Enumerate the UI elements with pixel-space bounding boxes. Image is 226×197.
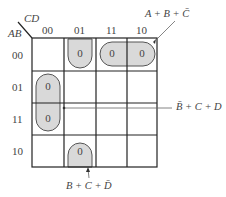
row-variable-label: AB	[8, 27, 21, 39]
cell-11-00: 0	[44, 112, 52, 124]
term-bbar-c-d: B̄ + C + D	[176, 101, 222, 112]
cell-00-01: 0	[76, 47, 84, 59]
cell-01-00: 0	[44, 80, 52, 92]
cell-00-11: 0	[108, 47, 116, 59]
row-header-10: 10	[12, 145, 23, 157]
term-a-b-cbar: A + B + C̄	[145, 8, 189, 19]
col-header-11: 11	[106, 24, 117, 36]
col-header-00: 00	[42, 24, 53, 36]
cell-00-10: 0	[138, 47, 146, 59]
row-header-11: 11	[12, 113, 23, 125]
term-b-c-dbar: B + C + D̄	[66, 180, 112, 191]
cell-10-01: 0	[76, 145, 84, 157]
col-header-01: 01	[74, 24, 85, 36]
col-header-10: 10	[136, 24, 147, 36]
row-header-00: 00	[12, 49, 23, 61]
col-variable-label: CD	[24, 12, 39, 24]
row-header-01: 01	[12, 81, 23, 93]
